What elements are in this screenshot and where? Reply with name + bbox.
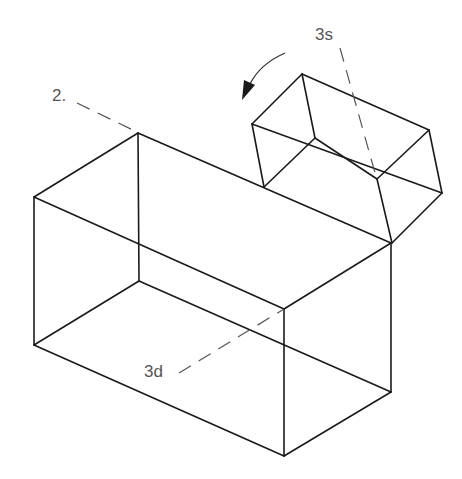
- label-view-2: 2.: [52, 87, 66, 104]
- leader-line-3d: [179, 309, 284, 373]
- diagram-canvas: 2. 3s 3d: [0, 0, 462, 479]
- leader-line-2: [77, 103, 137, 132]
- isometric-drawing: [0, 0, 462, 479]
- label-view-3s: 3s: [315, 26, 333, 43]
- large-box: [34, 133, 391, 456]
- leader-line-3s: [340, 48, 377, 180]
- small-box: [252, 74, 442, 243]
- label-view-3d: 3d: [144, 363, 163, 380]
- rotation-arrow-icon: [242, 53, 285, 100]
